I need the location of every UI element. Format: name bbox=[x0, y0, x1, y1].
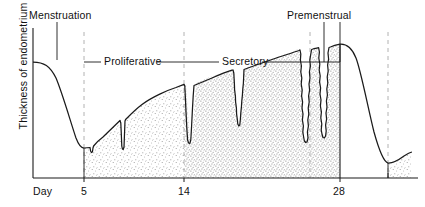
figure-canvas bbox=[0, 0, 425, 207]
endometrium-thickness-figure: Menstruation Premenstrual Proliferative … bbox=[0, 0, 425, 207]
label-secretory: Secretory bbox=[222, 56, 268, 67]
endometrium-fill-next-cycle bbox=[384, 148, 416, 182]
label-premenstrual: Premenstrual bbox=[287, 10, 351, 21]
x-tick-label-28: 28 bbox=[333, 186, 345, 197]
label-proliferative: Proliferative bbox=[104, 56, 161, 67]
x-tick-label-14: 14 bbox=[178, 186, 190, 197]
x-tick-label-5: 5 bbox=[81, 186, 87, 197]
label-menstruation: Menstruation bbox=[29, 10, 92, 21]
endometrium-fill-proliferative bbox=[80, 80, 190, 182]
x-axis-day-prefix: Day bbox=[33, 186, 52, 197]
y-axis-label: Thickness of endometrium bbox=[17, 1, 29, 131]
